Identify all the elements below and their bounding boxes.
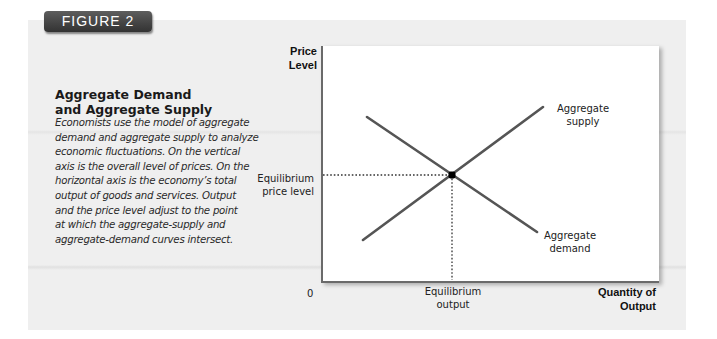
- equilibrium-price-label: Equilibrium price level: [246, 172, 314, 198]
- figure-title: Aggregate Demand and Aggregate Supply: [55, 87, 265, 117]
- figure-title-line: and Aggregate Supply: [55, 102, 265, 117]
- aggregate-demand-label: Aggregate demand: [538, 229, 602, 255]
- equilibrium-price-label-line: price level: [246, 185, 314, 198]
- caption-line: aggregate-demand curves intersect.: [55, 233, 275, 248]
- aggregate-demand-label-line: Aggregate: [538, 229, 602, 242]
- caption-line: and the price level adjust to the point: [55, 204, 275, 219]
- caption-line: output of goods and services. Output: [55, 189, 275, 204]
- aggregate-supply-label-line: Aggregate: [551, 102, 615, 115]
- figure-number-tab: FIGURE 2: [44, 11, 152, 32]
- figure-caption: Economists use the model of aggregate de…: [55, 116, 275, 247]
- caption-line: axis is the overall level of prices. On …: [55, 160, 275, 175]
- equilibrium-output-label-line: Equilibrium: [418, 285, 488, 298]
- x-axis-title-line: Output: [570, 299, 656, 313]
- caption-line: economic fluctuations. On the vertical: [55, 145, 275, 160]
- aggregate-supply-label-line: supply: [551, 115, 615, 128]
- equilibrium-price-label-line: Equilibrium: [246, 172, 314, 185]
- equilibrium-output-label-line: output: [418, 298, 488, 311]
- origin-label: 0: [307, 287, 313, 300]
- aggregate-supply-label: Aggregate supply: [551, 102, 615, 128]
- caption-line: demand and aggregate supply to analyze: [55, 131, 275, 146]
- caption-line: Economists use the model of aggregate: [55, 116, 275, 131]
- caption-line: horizontal axis is the economy’s total: [55, 174, 275, 189]
- y-axis-title: Price Level: [262, 44, 317, 72]
- plot-area: [321, 46, 659, 283]
- x-axis-title-line: Quantity of: [570, 285, 656, 299]
- figure-title-line: Aggregate Demand: [55, 87, 265, 102]
- y-axis-title-line: Price: [262, 44, 317, 58]
- y-axis-title-line: Level: [262, 58, 317, 72]
- aggregate-demand-label-line: demand: [538, 242, 602, 255]
- x-axis-title: Quantity of Output: [570, 285, 656, 313]
- equilibrium-output-label: Equilibrium output: [418, 285, 488, 311]
- caption-line: at which the aggregate-supply and: [55, 218, 275, 233]
